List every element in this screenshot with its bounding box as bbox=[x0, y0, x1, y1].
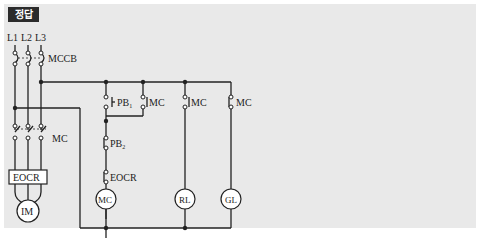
circuit-diagram: L1 L2 L3 MCCB MC EOCR IM PB1 MC PB2 EOCR… bbox=[0, 0, 480, 238]
label-l1: L1 bbox=[7, 32, 18, 43]
label-rl: RL bbox=[179, 195, 191, 205]
label-l2: L2 bbox=[21, 32, 32, 43]
label-mc-rl: MC bbox=[191, 97, 207, 108]
label-gl: GL bbox=[225, 195, 237, 205]
label-mc-gl: MC bbox=[236, 97, 252, 108]
label-eocr: EOCR bbox=[13, 172, 40, 183]
label-mc-selfhold: MC bbox=[149, 97, 165, 108]
label-mc-main: MC bbox=[52, 133, 68, 144]
label-mccb: MCCB bbox=[48, 53, 77, 64]
label-l3: L3 bbox=[35, 32, 46, 43]
label-pb1: PB1 bbox=[117, 97, 132, 109]
label-eocr-contact: EOCR bbox=[110, 172, 137, 183]
label-pb2: PB2 bbox=[110, 138, 125, 150]
label-mc-coil: MC bbox=[98, 195, 112, 205]
label-motor: IM bbox=[21, 206, 33, 217]
